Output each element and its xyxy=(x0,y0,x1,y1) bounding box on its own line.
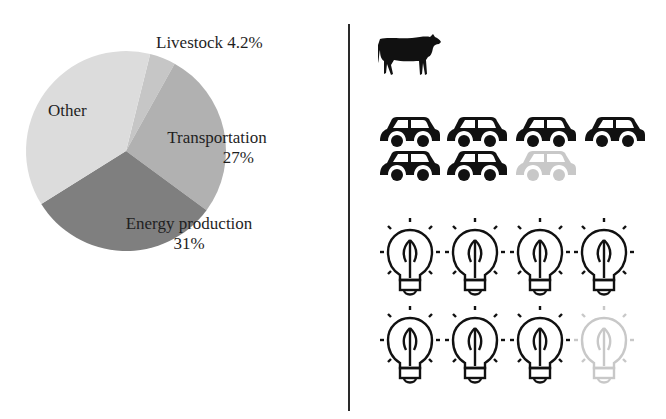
car-icon xyxy=(584,117,646,151)
label-transportation: Transportation 27% xyxy=(150,128,284,168)
lightbulb-leaf-icon-faded xyxy=(572,302,636,392)
car-icon xyxy=(379,117,441,151)
car-icon xyxy=(515,117,577,151)
car-icon xyxy=(446,117,508,151)
lightbulb-leaf-icon xyxy=(572,214,636,304)
label-energy: Energy production 31% xyxy=(108,214,270,254)
divider-line xyxy=(348,24,350,411)
lightbulb-leaf-icon xyxy=(378,302,442,392)
lightbulb-leaf-icon xyxy=(378,214,442,304)
label-other: Other xyxy=(48,101,87,121)
pictogram-panel xyxy=(352,0,666,419)
lightbulb-leaf-icon xyxy=(443,302,507,392)
car-icon xyxy=(446,151,508,185)
label-transportation-name: Transportation xyxy=(150,128,284,148)
lightbulb-leaf-icon xyxy=(508,214,572,304)
cow-icon xyxy=(378,33,442,83)
lightbulb-leaf-icon xyxy=(443,214,507,304)
label-energy-pct: 31% xyxy=(108,234,270,254)
label-livestock: Livestock 4.2% xyxy=(156,33,263,53)
label-energy-name: Energy production xyxy=(108,214,270,234)
lightbulb-leaf-icon xyxy=(508,302,572,392)
label-transportation-pct: 27% xyxy=(150,148,284,168)
car-icon xyxy=(379,151,441,185)
car-icon-faded xyxy=(515,151,577,185)
